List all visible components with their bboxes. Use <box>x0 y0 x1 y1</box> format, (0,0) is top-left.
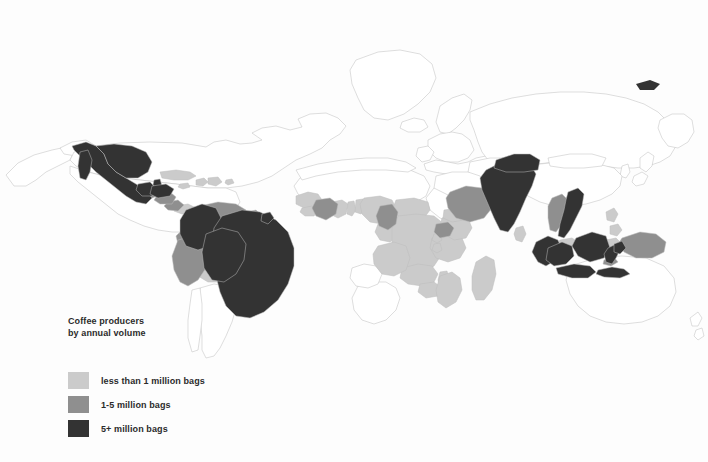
legend-label-tier1: less than 1 million bags <box>101 376 205 386</box>
coffee-producers-map: Coffee producers by annual volume less t… <box>0 0 708 462</box>
legend-swatch-tier2 <box>68 396 89 413</box>
legend-label-tier2: 1-5 million bags <box>101 400 171 410</box>
legend-swatch-tier1 <box>68 372 89 389</box>
map-legend: Coffee producers by annual volume less t… <box>68 316 328 444</box>
legend-title: Coffee producers by annual volume <box>68 316 328 339</box>
legend-items: less than 1 million bags 1-5 million bag… <box>68 372 328 437</box>
legend-title-line1: Coffee producers <box>68 316 328 328</box>
legend-row-tier3: 5+ million bags <box>68 420 328 437</box>
legend-label-tier3: 5+ million bags <box>101 424 168 434</box>
legend-row-tier1: less than 1 million bags <box>68 372 328 389</box>
legend-swatch-tier3 <box>68 420 89 437</box>
unfilled-landmasses <box>6 50 704 358</box>
legend-title-line2: by annual volume <box>68 328 328 340</box>
legend-row-tier2: 1-5 million bags <box>68 396 328 413</box>
